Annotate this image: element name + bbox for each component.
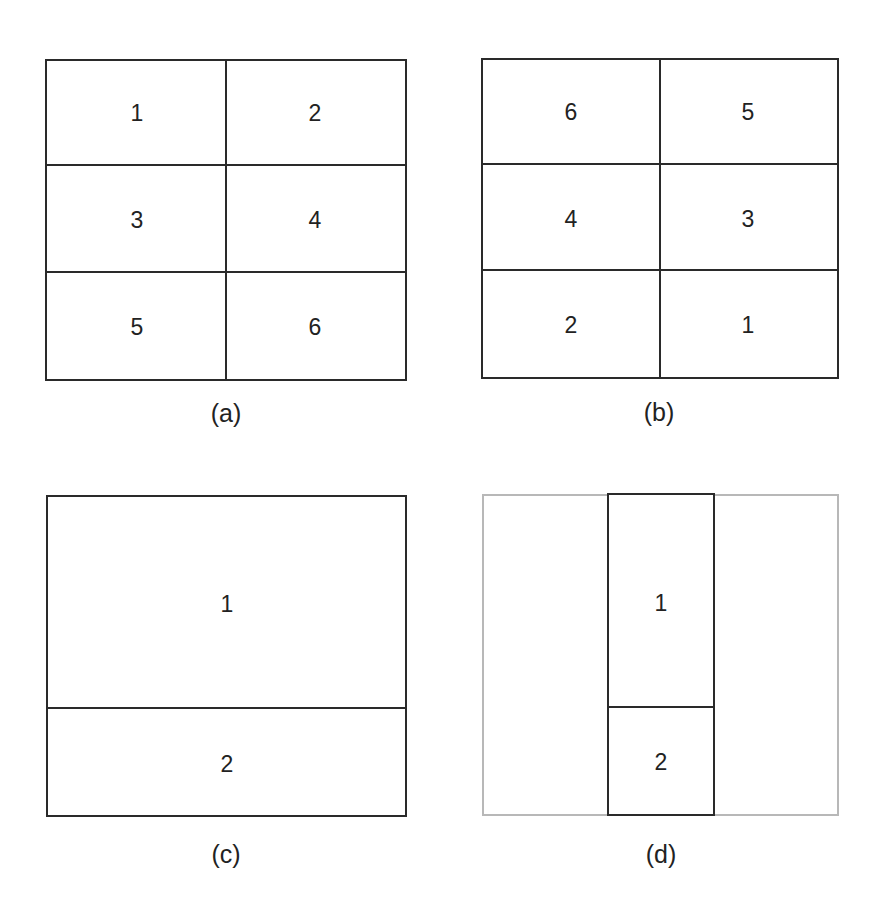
panel-a-column-divider [225,59,227,381]
panel-b-column-divider [659,58,661,379]
panel-a-cell-4: 4 [309,209,322,232]
panel-b: 6 5 4 3 2 1 (b) [441,0,883,457]
panel-d: 1 2 (d) [441,457,883,914]
panel-a-cell-2: 2 [309,102,322,125]
panel-d-row-divider [607,706,715,708]
panel-b-cell-6: 6 [565,101,578,124]
panel-a-cell-1: 1 [131,102,144,125]
panel-c-cell-1: 1 [221,593,234,616]
panel-b-cell-1: 1 [742,314,755,337]
panel-b-cell-4: 4 [565,208,578,231]
panel-c-row-divider [46,707,407,709]
panel-a-cell-5: 5 [131,316,144,339]
panel-a-row-divider-1 [45,164,407,166]
panel-c: 1 2 (c) [0,457,441,914]
panel-d-caption: (d) [646,842,677,867]
panel-a-row-divider-2 [45,271,407,273]
panel-a-caption: (a) [211,401,242,426]
panel-b-cell-3: 3 [742,208,755,231]
panel-d-cell-2: 2 [655,751,668,774]
panel-d-cell-1: 1 [655,592,668,615]
panel-a-cell-6: 6 [309,316,322,339]
panel-b-cell-5: 5 [742,101,755,124]
panel-b-cell-2: 2 [565,314,578,337]
panel-a: 1 2 3 4 5 6 (a) [0,0,441,457]
panel-c-cell-2: 2 [221,753,234,776]
panel-c-caption: (c) [211,842,240,867]
panel-b-caption: (b) [644,400,675,425]
panel-a-cell-3: 3 [131,209,144,232]
panel-b-row-divider-1 [481,163,839,165]
panel-b-row-divider-2 [481,269,839,271]
